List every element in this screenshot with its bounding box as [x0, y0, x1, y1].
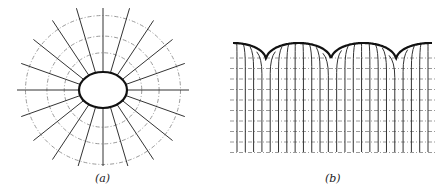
field-line	[110, 8, 129, 73]
field-line	[310, 44, 312, 152]
field-line	[33, 101, 83, 141]
field-line	[76, 8, 95, 73]
panel-b-diagram	[230, 43, 435, 153]
field-line	[250, 47, 254, 152]
elliptical-boundary	[79, 72, 127, 108]
field-line	[110, 107, 129, 172]
field-line	[279, 47, 282, 152]
field-line	[403, 50, 408, 152]
field-line	[376, 45, 378, 152]
field-line	[122, 101, 172, 141]
field-line	[122, 39, 172, 79]
field-line	[126, 96, 185, 117]
field-line	[411, 46, 414, 152]
field-line	[117, 105, 153, 160]
panel-a-diagram	[17, 4, 189, 176]
scalloped-boundary	[233, 43, 432, 58]
field-line	[52, 20, 88, 75]
field-line	[337, 50, 342, 152]
field-line	[345, 46, 348, 152]
field-line	[389, 55, 395, 152]
field-line	[316, 47, 320, 152]
field-line	[21, 96, 80, 117]
field-line	[243, 44, 245, 152]
field-line	[126, 63, 185, 84]
field-line	[287, 44, 289, 152]
field-line	[76, 107, 95, 172]
field-line	[33, 39, 83, 79]
field-line	[21, 63, 80, 84]
field-line	[257, 52, 262, 152]
field-line	[369, 43, 370, 152]
figure-canvas	[0, 0, 446, 194]
field-line	[52, 105, 88, 160]
field-line	[420, 44, 421, 152]
caption-b: (b)	[325, 172, 341, 185]
field-line	[353, 44, 355, 152]
field-line	[117, 20, 153, 75]
field-line	[270, 52, 275, 152]
caption-a: (a)	[95, 172, 110, 185]
